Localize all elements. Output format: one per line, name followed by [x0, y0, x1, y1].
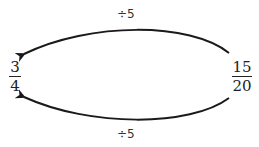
target-fraction: 3 4 — [9, 59, 21, 94]
top-arrow-label: ÷5 — [117, 7, 135, 21]
source-numerator: 15 — [232, 59, 251, 75]
source-fraction: 15 20 — [232, 59, 252, 94]
target-numerator: 3 — [10, 59, 20, 75]
source-denominator: 20 — [232, 78, 251, 94]
target-denominator: 4 — [10, 78, 20, 94]
arrows — [0, 0, 259, 147]
bottom-arrow-label: ÷5 — [117, 127, 135, 141]
bottom-arrow — [24, 97, 229, 120]
top-arrow — [24, 30, 229, 54]
